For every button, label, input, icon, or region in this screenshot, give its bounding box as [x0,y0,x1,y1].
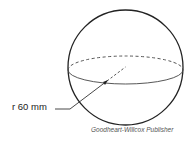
equator-back-dashed [68,56,183,70]
publisher-credit: Goodheart-Willcox Publisher [91,126,173,133]
sphere-diagram [0,0,195,146]
radius-label: r 60 mm [12,101,47,112]
radius-dashed-line [107,67,126,81]
equator-front [68,70,183,84]
arrowhead [103,80,108,85]
